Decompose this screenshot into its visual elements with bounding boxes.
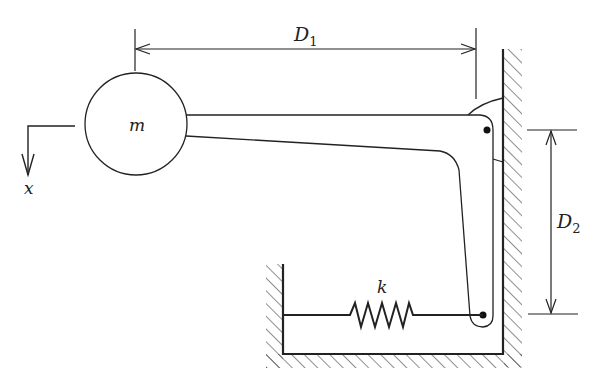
pivot-pin [484,127,491,134]
ground-hatching [266,49,522,368]
x-axis-arrow [22,126,75,175]
mechanical-diagram: m k D1 D2 x [0,0,605,386]
lever-wall-contact [493,159,503,162]
mass-label: m [129,115,145,135]
spring-label: k [377,277,387,297]
d1-label: D1 [293,23,318,49]
lever [186,115,493,327]
d2-label: D2 [556,210,581,236]
pivot-bracket [468,98,503,115]
spring [283,303,483,327]
x-axis-label: x [24,178,34,198]
